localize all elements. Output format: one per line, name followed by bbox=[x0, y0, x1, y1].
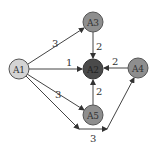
weight-a1-a4: 3 bbox=[90, 133, 96, 144]
weight-a1-a3: 3 bbox=[52, 38, 58, 49]
node-a4: A4 bbox=[128, 58, 148, 78]
node-a5: A5 bbox=[83, 105, 103, 125]
node-a1: A1 bbox=[9, 59, 29, 79]
node-a3: A3 bbox=[83, 12, 103, 32]
weight-a3-a2: 2 bbox=[96, 41, 102, 52]
node-a2: A2 bbox=[83, 59, 103, 79]
svg-text:A4: A4 bbox=[131, 64, 144, 74]
svg-text:A1: A1 bbox=[12, 65, 25, 75]
weight-a4-a2: 2 bbox=[112, 56, 118, 67]
weight-a5-a2: 2 bbox=[96, 86, 102, 97]
weight-a1-a2: 1 bbox=[66, 57, 72, 68]
edge-a1-a4 bbox=[26, 76, 79, 129]
weight-a1-a5: 3 bbox=[55, 89, 61, 100]
svg-text:A5: A5 bbox=[86, 111, 99, 121]
svg-text:A2: A2 bbox=[86, 65, 99, 75]
svg-text:A3: A3 bbox=[86, 18, 99, 28]
network-diagram: 3 1 3 2 2 2 3 A1 A3 A2 A4 A5 bbox=[0, 0, 155, 153]
